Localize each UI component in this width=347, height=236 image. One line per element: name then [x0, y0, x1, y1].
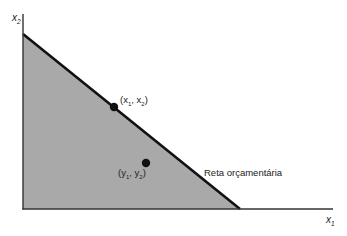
y-axis-label: x2: [11, 12, 21, 25]
x-axis-label: x1: [325, 214, 335, 227]
budget-set-diagram: x2 x1 (x1, x2) (y1, y2) Reta orçamentári…: [0, 0, 347, 236]
budget-line-label: Reta orçamentária: [204, 167, 283, 178]
point-x1-x2: [110, 103, 118, 111]
point-y1-y2: [142, 159, 150, 167]
point-x1-x2-label: (x1, x2): [120, 94, 148, 107]
